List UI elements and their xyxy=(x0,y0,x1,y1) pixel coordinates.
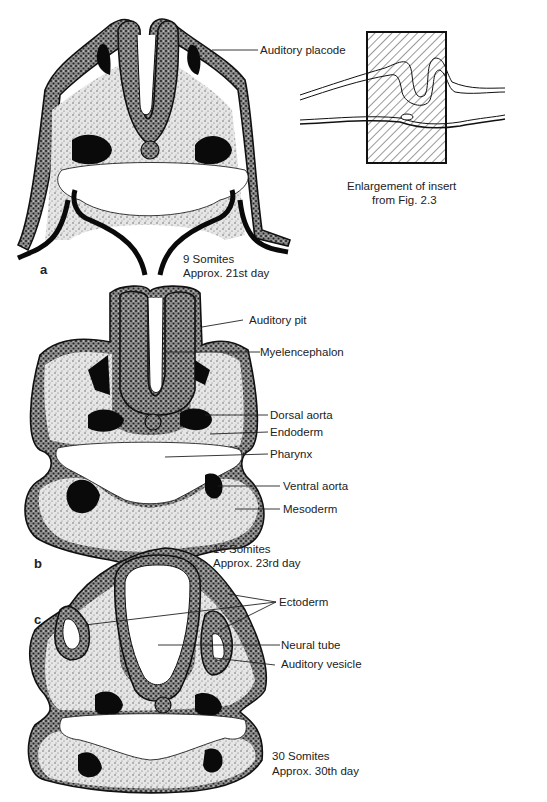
panel-b-section xyxy=(25,286,280,565)
panel-letter-b: b xyxy=(34,556,42,571)
label-auditory-pit: Auditory pit xyxy=(249,313,307,327)
insert-caption-line1: Enlargement of insert xyxy=(347,179,456,193)
insert-caption-line2: from Fig. 2.3 xyxy=(372,193,437,207)
panel-b-age: Approx. 23rd day xyxy=(213,556,301,570)
panel-letter-c: c xyxy=(34,612,41,627)
panel-letter-a: a xyxy=(40,262,47,277)
panel-b-stage: 16 Somites xyxy=(213,542,271,556)
panel-a-age: Approx. 21st day xyxy=(183,266,269,280)
label-pharynx: Pharynx xyxy=(270,447,312,461)
embryo-cross-section-figure xyxy=(0,0,547,802)
label-dorsal-aorta: Dorsal aorta xyxy=(270,408,333,422)
panel-c-section xyxy=(28,548,280,793)
label-ventral-aorta: Ventral aorta xyxy=(283,479,348,493)
label-endoderm: Endoderm xyxy=(270,425,323,439)
panel-c-age: Approx. 30th day xyxy=(272,764,359,778)
label-myelencephalon: Myelencephalon xyxy=(260,345,344,359)
label-auditory-vesicle: Auditory vesicle xyxy=(281,657,362,671)
panel-a-section xyxy=(18,19,290,275)
panel-a-stage: 9 Somites xyxy=(183,252,234,266)
label-neural-tube: Neural tube xyxy=(281,638,340,652)
label-mesoderm: Mesoderm xyxy=(283,502,337,516)
label-auditory-placode: Auditory placode xyxy=(260,43,346,57)
label-ectoderm: Ectoderm xyxy=(279,595,328,609)
panel-c-stage: 30 Somites xyxy=(272,749,330,763)
